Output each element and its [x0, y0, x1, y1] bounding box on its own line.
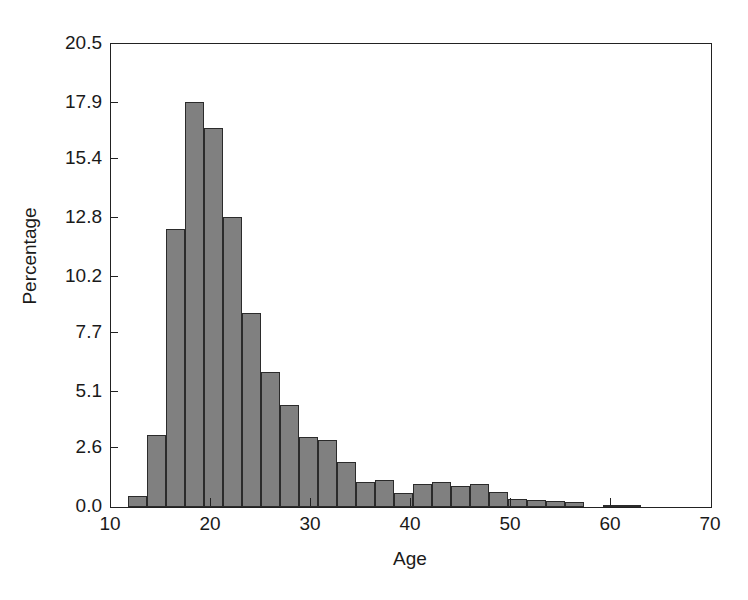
- histogram-figure: 0.02.65.17.710.212.815.417.920.5 Age Per…: [0, 0, 748, 600]
- x-axis-tick-mark: [410, 498, 411, 506]
- x-axis-tick-label: 30: [270, 513, 350, 535]
- x-axis-tick-label: 50: [470, 513, 550, 535]
- y-axis-tick-label: 12.8: [32, 207, 102, 226]
- histogram-bar: [603, 505, 622, 507]
- y-axis-tick-label: 17.9: [32, 92, 102, 111]
- histogram-bar: [337, 462, 356, 507]
- histogram-bar: [299, 437, 318, 507]
- histogram-bar: [527, 500, 546, 507]
- histogram-bar: [489, 492, 508, 507]
- histogram-bar: [147, 435, 166, 507]
- histogram-bar: [375, 480, 394, 507]
- y-axis-tick-label: 7.7: [32, 322, 102, 341]
- x-axis-tick-mark: [510, 498, 511, 506]
- histogram-bar: [413, 484, 432, 507]
- histogram-bar: [128, 496, 147, 507]
- y-axis-title: Percentage: [19, 156, 41, 356]
- x-axis-tick-mark: [210, 498, 211, 506]
- y-axis-tick-mark: [110, 158, 118, 159]
- histogram-bar: [166, 229, 185, 507]
- x-axis-tick-label: 40: [370, 513, 450, 535]
- y-axis-tick-mark: [110, 102, 118, 103]
- y-axis-tick-mark: [110, 276, 118, 277]
- histogram-bar: [451, 486, 470, 507]
- x-axis-tick-mark: [610, 498, 611, 506]
- histogram-bar: [356, 482, 375, 507]
- x-axis-tick-mark: [310, 498, 311, 506]
- histogram-bar: [622, 505, 641, 507]
- histogram-bar: [565, 502, 584, 507]
- histogram-bar: [261, 372, 280, 508]
- histogram-bar: [185, 102, 204, 507]
- histogram-bar: [204, 128, 223, 507]
- y-axis-tick-label: 20.5: [32, 33, 102, 52]
- y-axis-tick-mark: [110, 332, 118, 333]
- histogram-bar: [432, 482, 451, 507]
- histogram-bar: [546, 501, 565, 507]
- plot-area: [110, 43, 712, 508]
- y-axis-tick-label: 2.6: [32, 437, 102, 456]
- x-axis-tick-label: 60: [570, 513, 650, 535]
- x-axis-tick-label: 10: [70, 513, 150, 535]
- y-axis-tick-mark: [110, 447, 118, 448]
- bar-series: [111, 44, 711, 507]
- histogram-bar: [242, 313, 261, 507]
- y-axis-tick-label: 5.1: [32, 381, 102, 400]
- x-axis-title: Age: [110, 548, 710, 570]
- histogram-bar: [318, 440, 337, 507]
- y-axis-tick-label: 10.2: [32, 266, 102, 285]
- y-axis-tick-mark: [110, 391, 118, 392]
- y-axis-tick-label: 15.4: [32, 148, 102, 167]
- x-axis-tick-label: 70: [670, 513, 748, 535]
- histogram-bar: [223, 217, 242, 507]
- histogram-bar: [280, 405, 299, 507]
- y-axis-tick-mark: [110, 217, 118, 218]
- histogram-bar: [470, 484, 489, 507]
- x-axis-tick-label: 20: [170, 513, 250, 535]
